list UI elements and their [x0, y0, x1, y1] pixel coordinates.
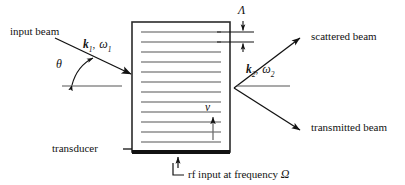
acousto-optic-bragg-cell-figure: input beam k1, ω1 θ Λ v k2, ω2 scattered…	[0, 0, 405, 185]
transmitted-beam-label: transmitted beam	[311, 122, 387, 133]
rf-input-text: rf input at frequency	[188, 168, 278, 180]
omega1-symbol: ω	[99, 37, 107, 51]
figure-vector-graphics	[0, 0, 405, 185]
omega2-subscript: 2	[271, 70, 275, 79]
theta-label: θ	[56, 58, 62, 70]
input-beam-label: input beam	[10, 26, 59, 37]
transducer-element	[132, 150, 230, 154]
lambda-label: Λ	[238, 4, 245, 16]
transmitted-beam-arrow	[234, 88, 300, 130]
acoustic-velocity-label: v	[205, 102, 210, 114]
rf-input-leader	[173, 157, 184, 175]
transducer-label: transducer	[52, 143, 98, 154]
omega2-symbol: ω	[262, 62, 270, 76]
k2-omega2-comma: ,	[256, 63, 259, 75]
rf-input-caption: rf input at frequency Ω	[188, 168, 290, 180]
k1-omega1-label: k1, ω1	[83, 35, 111, 54]
transducer-bar	[132, 150, 230, 154]
theta-angle-arc	[72, 58, 93, 85]
k2-omega2-label: k2, ω2	[246, 60, 274, 79]
rf-frequency-symbol: Ω	[281, 167, 290, 181]
omega1-subscript: 1	[108, 45, 112, 54]
k1-omega1-comma: ,	[93, 38, 96, 50]
scattered-beam-label: scattered beam	[311, 31, 377, 42]
